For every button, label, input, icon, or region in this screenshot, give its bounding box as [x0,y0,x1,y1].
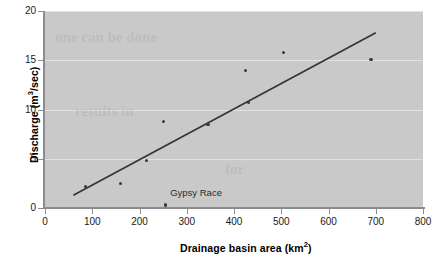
x-tick-label: 600 [309,216,349,227]
data-point [84,185,87,188]
x-tick [234,209,235,214]
x-tick-label: 400 [214,216,254,227]
y-tick-label: 0 [0,202,36,213]
x-axis-title-main: Drainage basin area (km [180,242,304,254]
y-tick [38,11,43,12]
y-axis-title-tail: /sec) [28,67,40,91]
x-tick [92,209,93,214]
y-axis-title: Discharge (m3/sec) [26,20,40,210]
scatter-chart-figure: Discharge (m3/sec) Drainage basin area (… [0,0,435,262]
x-tick-label: 0 [25,216,65,227]
y-tick [38,110,43,111]
y-tick-label: 20 [0,5,36,16]
y-axis-title-superscript: 3 [26,91,35,95]
data-point [369,58,372,61]
x-tick-label: 300 [167,216,207,227]
x-tick-label: 800 [403,216,435,227]
x-tick [329,209,330,214]
y-tick-label: 10 [0,104,36,115]
x-tick-label: 100 [72,216,112,227]
x-axis-title-tail: ) [308,242,312,254]
x-tick [376,209,377,214]
data-point [162,120,165,123]
x-tick [281,209,282,214]
y-tick-label: 15 [0,54,36,65]
x-tick [423,209,424,214]
x-tick-label: 200 [120,216,160,227]
plot-area: one can be doneresults infor Gypsy Race [45,11,423,208]
y-axis-line [43,11,45,209]
x-tick-label: 700 [356,216,396,227]
y-tick-label: 5 [0,153,36,164]
x-tick [45,209,46,214]
trend-line [45,11,423,208]
data-point [206,123,209,126]
x-tick [187,209,188,214]
x-tick-label: 500 [261,216,301,227]
y-tick [38,208,43,209]
x-tick [140,209,141,214]
y-tick [38,159,43,160]
y-tick [38,60,43,61]
x-axis-title: Drainage basin area (km2) [180,240,312,254]
annotation-gypsy-race: Gypsy Race [170,187,222,198]
data-point [247,101,250,104]
